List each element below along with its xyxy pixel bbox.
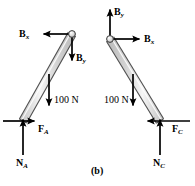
- right-pin-joint: [107, 36, 114, 43]
- right-normal-label: NC: [153, 158, 165, 170]
- right-weight-label: 100 N: [104, 95, 129, 105]
- left-friction-label: FA: [38, 124, 49, 136]
- right-bar-body: [106, 37, 163, 123]
- figure-canvas: [0, 0, 195, 186]
- right-by-label: By: [114, 7, 124, 19]
- right-friction-label: FC: [172, 124, 183, 136]
- left-normal-label: NA: [16, 158, 28, 170]
- left-pin-joint: [69, 31, 76, 38]
- left-bar-body: [19, 32, 75, 123]
- left-by-label: By: [76, 53, 86, 65]
- right-bx-label: Bx: [144, 34, 154, 46]
- left-weight-label: 100 N: [54, 95, 79, 105]
- free-body-diagram-figure: Bx By 100 N FA NA By Bx 100 N FC NC (b): [0, 0, 195, 186]
- left-bx-label: Bx: [19, 29, 29, 41]
- figure-caption: (b): [91, 166, 103, 176]
